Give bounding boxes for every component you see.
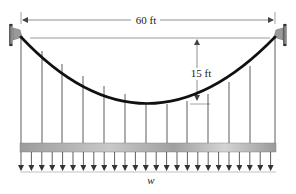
cable bbox=[21, 37, 275, 104]
hangers bbox=[21, 37, 275, 143]
span-dimension: 60 ft bbox=[21, 12, 275, 26]
cable-diagram: 60 ft 15 ft bbox=[0, 0, 296, 194]
load-label: w bbox=[147, 174, 155, 186]
right-support-icon bbox=[274, 24, 288, 46]
span-label: 60 ft bbox=[136, 14, 156, 26]
sag-label: 15 ft bbox=[191, 67, 211, 79]
distributed-load-arrows bbox=[21, 152, 271, 170]
left-support-icon bbox=[9, 24, 23, 46]
deck bbox=[20, 143, 276, 152]
